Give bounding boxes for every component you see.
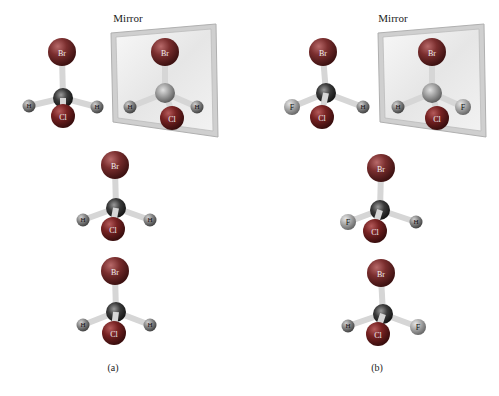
atom-label-br: Br [377, 270, 385, 279]
atom-label-f: F [416, 323, 421, 332]
atom-label-h: H [194, 103, 199, 111]
mirror-label-a: Mirror [113, 12, 143, 24]
atom-label-h: H [147, 216, 152, 224]
atom-label-cl: Cl [433, 115, 441, 124]
panel-label-a: (a) [107, 362, 118, 374]
atom-label-cl: Cl [110, 330, 118, 339]
atom-label-br: Br [58, 49, 66, 58]
panel-label-b: (b) [371, 362, 383, 374]
atom-label-h: H [345, 322, 350, 330]
atom-label-cl: Cl [59, 113, 67, 122]
atom-label-f: F [461, 103, 466, 112]
atom-label-h: H [127, 103, 132, 111]
atom-label-br: Br [111, 162, 119, 171]
atom-label-h: H [395, 103, 400, 111]
atom-label-h: H [80, 321, 85, 329]
atom-label-h: H [413, 218, 418, 226]
atom-label-f: F [290, 103, 295, 112]
atom-label-h: H [94, 103, 99, 111]
atom-label-f: F [346, 218, 351, 227]
atom-label-cl: Cl [318, 114, 326, 123]
atom-label-h: H [26, 102, 31, 110]
atom-label-br: Br [161, 49, 169, 58]
atom-label-br: Br [377, 165, 385, 174]
mirror-label-b: Mirror [378, 12, 408, 24]
atom-label-h: H [147, 321, 152, 329]
atom-label-br: Br [319, 49, 327, 58]
figure-canvas: Br H H Cl Br H H Cl Br H H Cl Br H H Cl … [0, 0, 499, 396]
atom-label-cl: Cl [374, 331, 382, 340]
atom-label-br: Br [111, 268, 119, 277]
atom-label-h: H [80, 216, 85, 224]
atom-label-cl: Cl [168, 115, 176, 124]
atom-label-br: Br [428, 49, 436, 58]
atom-label-cl: Cl [109, 226, 117, 235]
atom-label-cl: Cl [371, 228, 379, 237]
atom-label-h: H [360, 103, 365, 111]
